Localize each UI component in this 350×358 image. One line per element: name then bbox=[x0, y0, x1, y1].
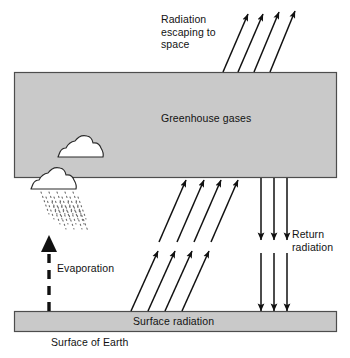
evaporation-arrow bbox=[41, 235, 57, 311]
label-greenhouse-gases: Greenhouse gases bbox=[161, 112, 251, 125]
label-evaporation: Evaporation bbox=[57, 262, 114, 275]
diagram-canvas bbox=[0, 0, 350, 358]
escaping-radiation-arrows bbox=[223, 11, 295, 72]
label-return-radiation: Return radiation bbox=[292, 228, 333, 253]
label-surface-of-earth: Surface of Earth bbox=[51, 336, 128, 349]
label-radiation-escaping-to-space: Radiation escaping to space bbox=[161, 13, 216, 51]
label-surface-radiation: Surface radiation bbox=[133, 315, 214, 328]
upward-radiation-arrows-upper bbox=[159, 180, 238, 242]
rain-streaks bbox=[41, 192, 88, 231]
greenhouse-gases-box bbox=[15, 73, 337, 178]
return-radiation-arrows bbox=[261, 178, 287, 311]
upward-radiation-arrows-lower bbox=[131, 251, 209, 311]
greenhouse-effect-diagram: Radiation escaping to space Greenhouse g… bbox=[0, 0, 350, 358]
